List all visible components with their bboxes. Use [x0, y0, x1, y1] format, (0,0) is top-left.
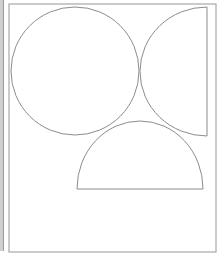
right-half-circle-shape	[140, 7, 207, 136]
diagram-canvas	[0, 0, 218, 255]
full-circle-shape	[11, 7, 139, 135]
shapes-diagram	[0, 0, 218, 255]
